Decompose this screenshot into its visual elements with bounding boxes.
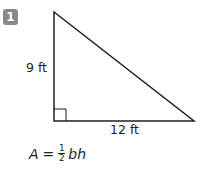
formula-equals: = bbox=[43, 146, 55, 162]
fraction-denominator: 2 bbox=[59, 154, 65, 163]
area-formula: A = 1 2 bh bbox=[29, 144, 86, 163]
formula-fraction: 1 2 bbox=[58, 144, 65, 163]
triangle-outline bbox=[54, 12, 194, 121]
height-label: 9 ft bbox=[26, 60, 47, 75]
formula-lhs: A bbox=[29, 146, 39, 162]
formula-rhs: bh bbox=[68, 146, 86, 162]
right-angle-marker bbox=[54, 109, 66, 121]
base-label: 12 ft bbox=[110, 122, 139, 137]
fraction-numerator: 1 bbox=[59, 144, 65, 153]
